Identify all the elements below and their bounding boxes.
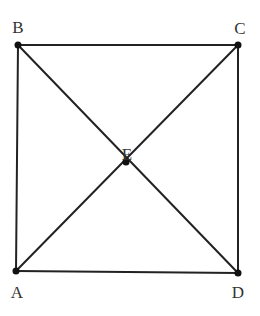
label-c: C [234, 19, 245, 38]
segment-da [16, 271, 238, 273]
segment-ab [16, 45, 18, 271]
point-c [235, 42, 242, 49]
point-d [235, 270, 242, 277]
label-e: E [122, 145, 132, 164]
point-b [15, 42, 22, 49]
label-a: A [11, 283, 24, 302]
square-diagram: ABCDE [0, 0, 260, 316]
point-a [13, 268, 20, 275]
labels-group: ABCDE [11, 18, 246, 302]
label-d: D [232, 283, 244, 302]
label-b: B [12, 18, 23, 37]
